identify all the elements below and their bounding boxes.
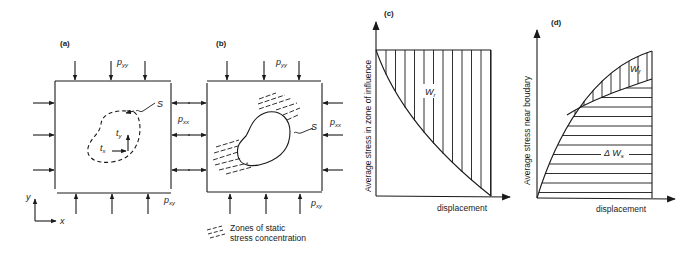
stress-zone-upper: [258, 93, 300, 120]
panel-b: (b) pyy pxy pxx: [188, 39, 343, 243]
inclusion: [237, 112, 290, 166]
dashed-region: [88, 111, 140, 163]
panel-b-label: (b): [216, 39, 227, 48]
hatch-horizontal: [539, 88, 652, 193]
delta-ws-label: Δ Ws: [603, 148, 624, 159]
pxx-label: pxx: [177, 114, 190, 125]
left-arrows: [188, 103, 206, 170]
x-axis-label: displacement: [596, 204, 647, 214]
axis-y-label: y: [25, 192, 31, 202]
pxy-arrows: [76, 194, 148, 214]
axis-x-label: x: [59, 216, 65, 226]
pyy-arrows: [227, 61, 299, 80]
surface-label: S: [157, 99, 163, 109]
pxy-label: pxy: [163, 195, 176, 206]
pyy-arrows: [75, 61, 145, 80]
y-axis-label: Average stress in zone of influence: [363, 60, 373, 192]
y-axis-label: Average stress near boudary: [522, 75, 532, 185]
pxy-label: pxy: [310, 198, 323, 209]
x-axis: [537, 198, 675, 199]
pxx-arrows: [323, 103, 343, 170]
pxy-arrows: [230, 194, 300, 214]
ty-label: ty: [116, 128, 123, 139]
panel-d-label: (d): [551, 18, 562, 27]
x-axis-label: displacement: [437, 203, 488, 213]
panel-a: (a) pyy pxy pxx: [25, 39, 190, 226]
legend-line-1: Zones of static: [230, 223, 286, 233]
pyy-label: pyy: [116, 57, 129, 68]
panel-a-label: (a): [60, 39, 70, 48]
stress-zone-lower: [213, 140, 252, 174]
pyy-label: pyy: [275, 57, 288, 68]
x-axis: [376, 196, 510, 197]
surface-label: S: [311, 122, 317, 132]
panel-c-label: (c): [384, 9, 394, 18]
panel-c: (c) Wr displacement Average stress in zo…: [363, 9, 510, 213]
left-arrows: [33, 103, 54, 170]
figure: (a) pyy pxy pxx: [0, 0, 681, 255]
legend: Zones of static stress concentration: [207, 223, 306, 243]
s-pointer: [136, 103, 155, 112]
hatch-vertical: [386, 50, 491, 196]
tx-label: tx: [100, 143, 107, 154]
legend-line-2: stress concentration: [230, 233, 306, 243]
wf-label: Wf: [630, 64, 642, 75]
pxx-label: pxx: [329, 117, 342, 128]
panel-d: (d) Δ Ws Wf displacement Average stress …: [522, 18, 675, 214]
lower-curve: [567, 79, 652, 115]
